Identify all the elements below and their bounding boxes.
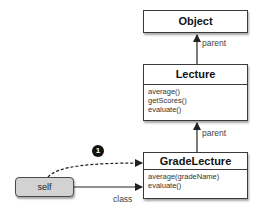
class-box-object: Object: [143, 10, 248, 33]
method: getScores(): [148, 96, 243, 105]
method-list: average(gradeName) evaluate(): [144, 170, 247, 192]
method: evaluate(): [148, 181, 243, 190]
parent-label: parent: [202, 128, 226, 138]
class-box-gradelecture: GradeLecture average(gradeName) evaluate…: [143, 152, 248, 199]
class-name: GradeLecture: [144, 153, 247, 169]
class-label: class: [113, 194, 132, 204]
dashed-arrow: [48, 163, 142, 177]
class-box-lecture: Lecture average() getScores() evaluate(): [143, 64, 248, 121]
self-instance-box: self: [15, 177, 74, 197]
method: evaluate(): [148, 105, 243, 114]
class-name: Lecture: [144, 65, 247, 84]
method: average(gradeName): [148, 172, 243, 181]
method: average(): [148, 87, 243, 96]
method-list: average() getScores() evaluate(): [144, 85, 247, 116]
class-name: Object: [144, 11, 247, 32]
parent-label: parent: [202, 38, 226, 48]
step-badge: 1: [92, 145, 104, 157]
